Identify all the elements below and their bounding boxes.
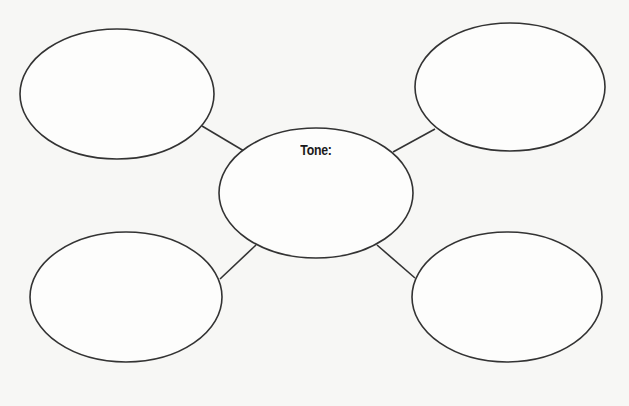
- node-bottom-left[interactable]: [30, 232, 222, 362]
- node-top-left[interactable]: [20, 29, 214, 159]
- connector-bottom-right: [377, 245, 415, 278]
- connector-bottom-left: [220, 245, 256, 279]
- connector-top-right: [393, 129, 435, 152]
- center-node-label: Tone:: [272, 142, 360, 158]
- connector-top-left: [202, 126, 244, 151]
- tone-web-diagram: [0, 0, 629, 406]
- node-top-right[interactable]: [415, 23, 605, 151]
- node-bottom-right[interactable]: [412, 232, 602, 362]
